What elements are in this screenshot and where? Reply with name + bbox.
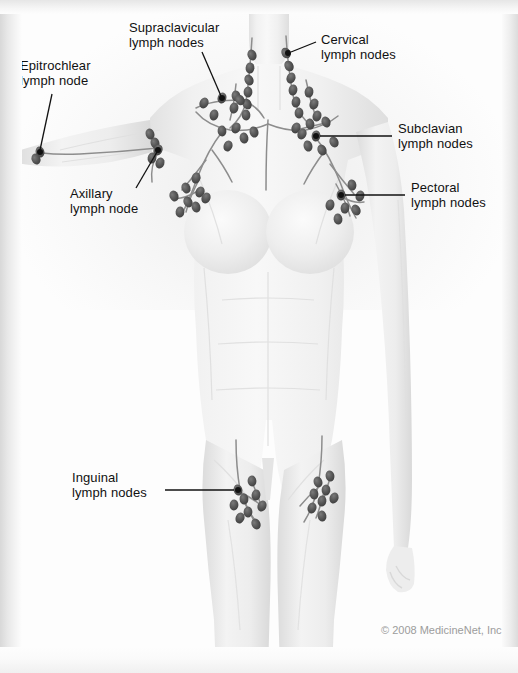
cervical-label: Cervical lymph nodes (321, 32, 396, 62)
axillary-label-line2: lymph node (70, 201, 138, 216)
anatomy-illustration (0, 0, 518, 673)
supraclavicular-label: Supraclavicular lymph nodes (129, 20, 219, 50)
pectoral-label-line2: lymph nodes (411, 195, 486, 210)
pectoral-label-line1: Pectoral (411, 180, 486, 195)
inguinal-label: Inguinal lymph nodes (72, 470, 147, 500)
copyright-notice: © 2008 MedicineNet, Inc. (381, 624, 505, 636)
page-edge-right (502, 0, 518, 673)
axillary-label-line1: Axillary (70, 186, 138, 201)
cervical-label-line2: lymph nodes (321, 47, 396, 62)
epitrochlear-label-line1: Epitrochlear (20, 58, 91, 73)
page-edge-bottom (0, 647, 518, 673)
lymph-node-diagram: Epitrochlear lymph node Supraclavicular … (0, 0, 518, 673)
supraclavicular-label-line1: Supraclavicular (129, 20, 219, 35)
axillary-label: Axillary lymph node (70, 186, 138, 216)
subclavian-label: Subclavian lymph nodes (398, 121, 473, 151)
inguinal-label-line1: Inguinal (72, 470, 147, 485)
subclavian-label-line2: lymph nodes (398, 136, 473, 151)
page-edge-left (0, 0, 22, 673)
inguinal-label-line2: lymph nodes (72, 485, 147, 500)
subclavian-label-line1: Subclavian (398, 121, 473, 136)
epitrochlear-label-line2: lymph node (20, 73, 91, 88)
supraclavicular-label-line2: lymph nodes (129, 35, 219, 50)
cervical-label-line1: Cervical (321, 32, 396, 47)
epitrochlear-label: Epitrochlear lymph node (20, 58, 91, 88)
page-edge-top (0, 0, 518, 14)
pectoral-label: Pectoral lymph nodes (411, 180, 486, 210)
